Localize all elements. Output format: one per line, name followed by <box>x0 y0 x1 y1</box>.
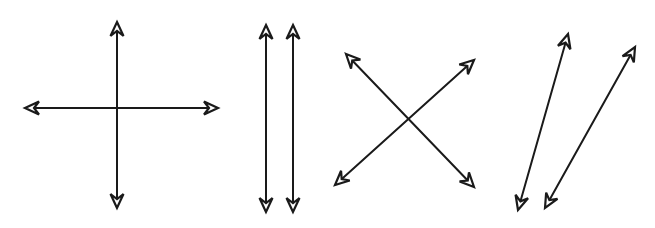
left-vertical-line <box>260 25 273 212</box>
line-segment <box>520 42 566 203</box>
perpendicular-lines <box>25 22 218 208</box>
diagram-svg <box>0 0 655 228</box>
lines-diagram <box>0 0 655 228</box>
left-skew-line <box>516 34 571 210</box>
horizontal-line <box>25 102 218 115</box>
descending-diagonal-line <box>346 54 474 187</box>
line-segment <box>549 54 631 201</box>
line-segment <box>341 65 468 179</box>
vertical-line <box>111 22 124 208</box>
right-skew-line <box>545 47 635 208</box>
parallel-vertical-lines <box>260 25 300 212</box>
skew-lines <box>516 34 635 210</box>
line-segment <box>352 60 469 181</box>
right-vertical-line <box>287 25 300 212</box>
intersecting-diagonal-lines <box>335 54 474 187</box>
